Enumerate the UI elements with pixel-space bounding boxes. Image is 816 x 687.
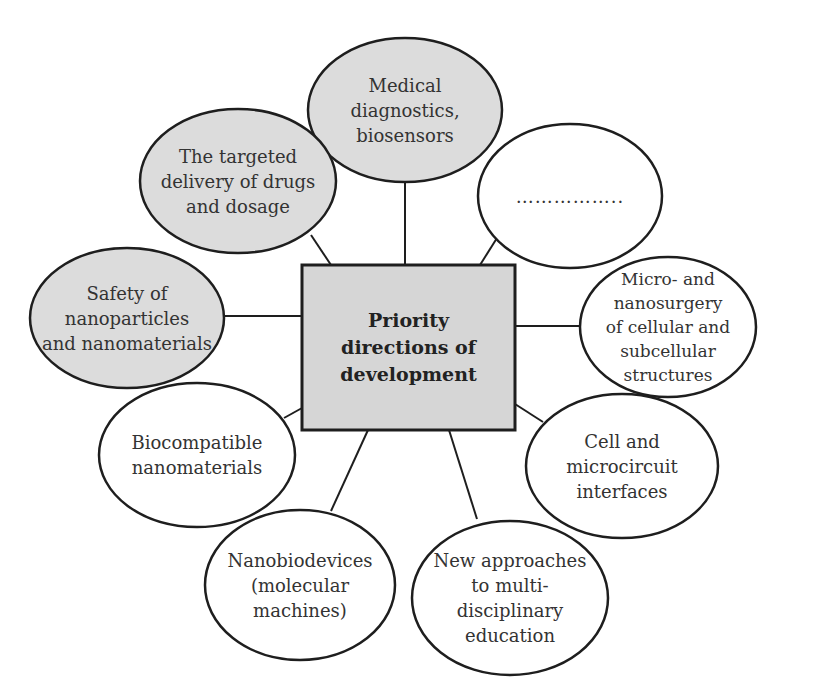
- connector-nanobiodevices: [331, 430, 368, 511]
- node-label-safety: Safety of nanoparticles and nanomaterial…: [30, 248, 224, 388]
- node-label-cell-interfaces: Cell and microcircuit interfaces: [526, 394, 718, 538]
- node-label-nanobiodevices: Nanobiodevices (molecular machines): [205, 510, 395, 660]
- connector-education: [449, 430, 477, 519]
- node-label-nanosurgery: Micro- and nanosurgery of cellular and s…: [580, 257, 756, 397]
- node-label-placeholder: ……………..: [478, 124, 662, 268]
- node-label-biocompatible: Biocompatible nanomaterials: [99, 383, 295, 527]
- node-label-education: New approaches to multi- disciplinary ed…: [412, 521, 608, 675]
- node-label-targeted-delivery: The targeted delivery of drugs and dosag…: [140, 109, 336, 253]
- node-label-medical: Medical diagnostics, biosensors: [308, 38, 502, 182]
- center-box-label: Priority directions of development: [302, 265, 515, 430]
